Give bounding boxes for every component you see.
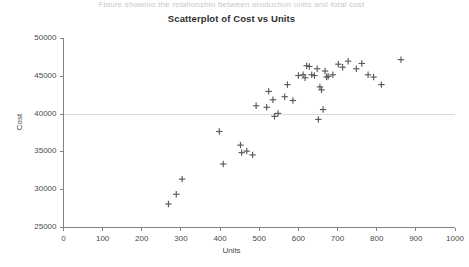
x-tick-label: 600 — [278, 234, 318, 243]
data-point-marker — [263, 104, 269, 110]
y-tick-label: 50000 — [5, 33, 57, 42]
data-point-marker — [265, 88, 271, 94]
data-point-marker — [318, 87, 324, 93]
data-point-marker — [330, 72, 336, 78]
axis-ticks — [60, 39, 455, 232]
data-point-marker — [325, 73, 331, 79]
x-tick-label: 0 — [44, 234, 84, 243]
data-point-marker — [320, 106, 326, 112]
data-point-marker — [322, 68, 328, 74]
data-point-marker — [317, 84, 323, 90]
data-point-marker — [365, 72, 371, 78]
data-point-marker — [249, 152, 255, 158]
data-point-marker — [173, 191, 179, 197]
x-tick-label: 500 — [239, 234, 279, 243]
data-point-marker — [359, 60, 365, 66]
data-point-marker — [220, 161, 226, 167]
y-tick-label: 25000 — [5, 222, 57, 231]
y-tick-label: 40000 — [5, 109, 57, 118]
x-tick-label: 800 — [357, 234, 397, 243]
data-point-marker — [253, 103, 259, 109]
data-point-marker — [275, 110, 281, 116]
x-tick-label: 100 — [83, 234, 123, 243]
x-tick-label: 700 — [318, 234, 358, 243]
data-point-marker — [345, 58, 351, 64]
data-point-marker — [339, 64, 345, 70]
data-point-marker — [179, 176, 185, 182]
x-tick-label: 1000 — [435, 234, 469, 243]
y-tick-label: 30000 — [5, 184, 57, 193]
data-point-marker — [216, 128, 222, 134]
y-tick-label: 45000 — [5, 71, 57, 80]
data-point-marker — [290, 97, 296, 103]
data-point-marker — [244, 148, 250, 154]
data-point-marker — [323, 74, 329, 80]
data-point-marker — [315, 116, 321, 122]
data-point-marker — [238, 149, 244, 155]
data-point-marker — [270, 97, 276, 103]
y-tick-label: 35000 — [5, 146, 57, 155]
data-point-marker — [378, 81, 384, 87]
data-point-marker — [295, 72, 301, 78]
axis-lines — [64, 39, 456, 228]
data-point-marker — [237, 142, 243, 148]
y-axis-title: Cost — [15, 102, 24, 142]
data-point-marker — [165, 201, 171, 207]
data-point-marker — [284, 81, 290, 87]
data-point-marker — [353, 66, 359, 72]
data-point-marker — [398, 56, 404, 62]
x-tick-label: 300 — [161, 234, 201, 243]
x-tick-label: 900 — [396, 234, 436, 243]
data-point-marker — [335, 61, 341, 67]
data-point-marker — [281, 94, 287, 100]
x-axis-title: Units — [0, 246, 463, 255]
data-point-marker — [370, 74, 376, 80]
data-points — [165, 56, 404, 207]
data-point-marker — [314, 66, 320, 72]
x-tick-label: 200 — [122, 234, 162, 243]
x-tick-label: 400 — [200, 234, 240, 243]
